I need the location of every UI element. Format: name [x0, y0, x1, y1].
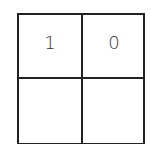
- binary-grid: 1 0: [17, 13, 145, 144]
- cell-r1-c1: [83, 79, 145, 141]
- cell-r0-c1: 0: [83, 11, 145, 73]
- cell-r0-c0: 1: [19, 11, 81, 73]
- cell-r1-c0: [19, 79, 81, 141]
